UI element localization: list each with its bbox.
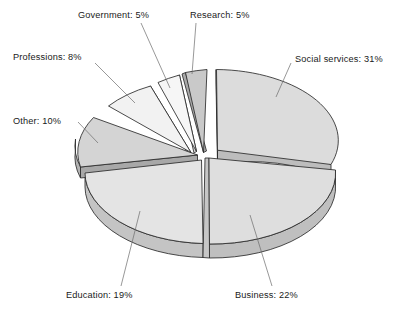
slice-top-research <box>186 70 208 153</box>
label-business: Business: 22% <box>235 290 298 300</box>
slice-side-business-cut <box>203 158 210 258</box>
label-education: Education: 19% <box>66 290 132 300</box>
leader-line-government <box>141 23 170 88</box>
slice-top-education <box>85 160 203 244</box>
slice-top-social-services <box>217 70 339 165</box>
leader-line-professions <box>95 63 135 103</box>
leader-line-research <box>192 23 196 74</box>
label-social-services: Social services: 31% <box>295 54 383 64</box>
label-government: Government: 5% <box>78 10 149 20</box>
label-other: Other: 10% <box>13 116 61 126</box>
label-research: Research: 5% <box>190 10 250 20</box>
slice-top-business <box>209 158 336 244</box>
pie-chart-figure: Government: 5% Research: 5% Professions:… <box>0 0 405 311</box>
label-professions: Professions: 8% <box>13 52 82 62</box>
pie-chart-canvas: Government: 5% Research: 5% Professions:… <box>0 0 405 311</box>
